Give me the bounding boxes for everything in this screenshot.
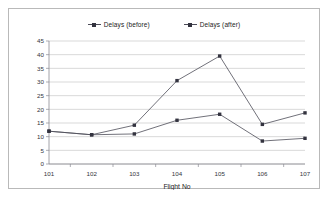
data-point	[175, 79, 178, 82]
data-series-group	[47, 54, 306, 142]
y-axis-labels-group: 051015202530354045	[37, 37, 44, 167]
data-point	[175, 119, 178, 122]
data-point	[47, 130, 50, 133]
plot-area: 051015202530354045 101102103104105106107…	[9, 9, 321, 190]
data-point	[133, 123, 136, 126]
y-tick-label: 30	[37, 78, 44, 85]
y-tick-label: 35	[37, 65, 44, 72]
data-point	[303, 111, 306, 114]
x-tick-label: 107	[300, 170, 311, 177]
tickmarks-group	[46, 41, 305, 167]
x-axis-title: Flight No	[163, 183, 190, 190]
chart-svg: 051015202530354045 101102103104105106107…	[9, 9, 321, 190]
data-point	[133, 132, 136, 135]
data-point	[90, 133, 93, 136]
x-tick-label: 103	[129, 170, 140, 177]
data-point	[218, 54, 221, 57]
y-tick-label: 10	[37, 133, 44, 140]
y-tick-label: 15	[37, 119, 44, 126]
y-tick-label: 40	[37, 51, 44, 58]
data-point	[261, 139, 264, 142]
y-tick-label: 25	[37, 92, 44, 99]
y-tick-label: 20	[37, 106, 44, 113]
x-tick-label: 102	[87, 170, 98, 177]
x-tick-label: 106	[257, 170, 268, 177]
x-tick-label: 101	[44, 170, 55, 177]
x-tick-label: 104	[172, 170, 183, 177]
y-tick-label: 45	[37, 37, 44, 44]
x-tick-label: 105	[215, 170, 226, 177]
data-point	[303, 137, 306, 140]
data-point	[261, 123, 264, 126]
chart-frame: Delays (before) Delays (after) 051015202…	[8, 8, 320, 189]
x-axis-labels-group: 101102103104105106107	[44, 170, 311, 177]
data-point	[218, 113, 221, 116]
y-tick-label: 5	[41, 147, 45, 154]
y-tick-label: 0	[41, 160, 45, 167]
series-line-2	[49, 114, 305, 141]
gridlines-group	[49, 41, 305, 164]
